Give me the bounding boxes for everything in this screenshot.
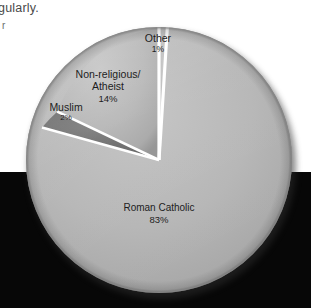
pie-rim-shade [26, 27, 292, 293]
screenshot-canvas: gularly. r [0, 0, 311, 308]
pie-chart: Other 1% Non-religious/ Atheist 14% Musl… [25, 26, 293, 294]
page-text-fragment: gularly. [0, 1, 39, 15]
page-text-fragment-mark: r [2, 20, 5, 31]
pie-chart-svg [25, 26, 293, 294]
